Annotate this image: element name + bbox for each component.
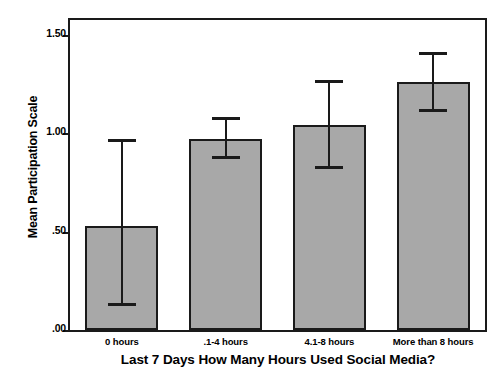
- x-axis-tick-label: 0 hours: [70, 336, 174, 347]
- error-bar-line: [121, 139, 123, 306]
- error-bar-cap-top: [419, 52, 447, 55]
- plot-frame: .00.501.001.50: [68, 18, 487, 332]
- y-axis-tick-label: 1.50: [46, 27, 66, 39]
- error-bar-cap-bottom: [315, 166, 343, 169]
- error-bar-cap-bottom: [108, 303, 136, 306]
- bar-chart-figure: Mean Participation Scale .00.501.001.50 …: [0, 0, 499, 378]
- y-axis-tick-label: .00: [52, 322, 66, 334]
- bar: [189, 139, 262, 330]
- x-axis-tick-label: .1-4 hours: [174, 336, 278, 347]
- y-axis-tick-label: .50: [52, 224, 66, 236]
- plot-area: .00.501.001.50: [70, 20, 485, 330]
- error-bar-cap-bottom: [212, 156, 240, 159]
- y-axis-title: Mean Participation Scale: [22, 2, 44, 332]
- x-axis-title: Last 7 Days How Many Hours Used Social M…: [68, 352, 488, 367]
- error-bar-line: [225, 117, 227, 158]
- error-bar-line: [328, 80, 330, 169]
- error-bar-cap-top: [212, 117, 240, 120]
- error-bar-cap-top: [108, 139, 136, 142]
- error-bar-cap-bottom: [419, 109, 447, 112]
- bar: [397, 82, 470, 330]
- error-bar-cap-top: [315, 80, 343, 83]
- error-bar-line: [432, 52, 434, 111]
- x-axis-tick-label: 4.1-8 hours: [278, 336, 382, 347]
- x-axis-tick-label: More than 8 hours: [381, 336, 485, 347]
- y-axis-tick-label: 1.00: [46, 125, 66, 137]
